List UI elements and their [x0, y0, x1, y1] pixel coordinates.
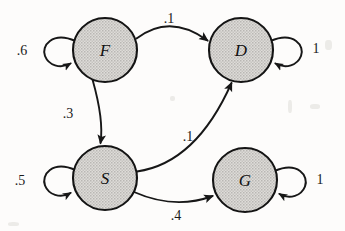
- state-diagram: F D S G .1 .3 .1 .4 .6 1 .5 1: [0, 0, 345, 231]
- node-D-label: D: [234, 41, 248, 60]
- edge-label-S-to-D: .1: [183, 129, 194, 144]
- scan-artifact: [310, 104, 320, 109]
- edge-label-F-to-D: .1: [164, 11, 175, 26]
- node-D[interactable]: D: [209, 18, 273, 82]
- edge-F-to-S: [93, 80, 102, 144]
- scan-artifact: [8, 222, 19, 226]
- scan-artifact: [288, 100, 292, 113]
- diagram-canvas: F D S G .1 .3 .1 .4 .6 1 .5 1: [0, 0, 345, 231]
- self-loop-F: [44, 38, 75, 67]
- self-loop-label-S: .5: [15, 173, 26, 188]
- edge-S-to-D: [137, 83, 232, 172]
- self-loop-G: [275, 168, 306, 197]
- node-G[interactable]: G: [213, 148, 277, 212]
- edge-label-S-to-G: .4: [171, 208, 182, 223]
- node-F[interactable]: F: [73, 18, 137, 82]
- edge-label-F-to-S: .3: [63, 106, 74, 121]
- node-G-label: G: [239, 171, 251, 190]
- self-loop-label-G: 1: [317, 172, 324, 187]
- self-loop-D: [271, 38, 302, 67]
- node-S-label: S: [101, 169, 110, 188]
- edge-F-to-D: [137, 26, 208, 40]
- scan-artifact: [170, 96, 175, 101]
- scan-artifact: [325, 40, 332, 50]
- node-S[interactable]: S: [73, 146, 137, 210]
- node-F-label: F: [99, 41, 111, 60]
- self-loop-S: [44, 167, 75, 196]
- edge-S-to-G: [134, 192, 213, 202]
- self-loop-label-D: 1: [313, 41, 320, 56]
- self-loop-label-F: .6: [17, 43, 28, 58]
